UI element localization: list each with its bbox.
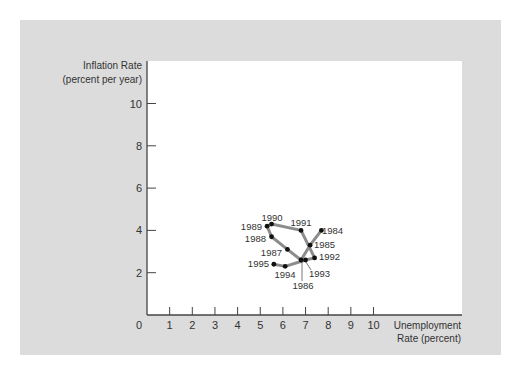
x-tick-label: 5 — [257, 319, 263, 331]
data-point-1992 — [312, 255, 317, 260]
plot-area — [147, 61, 462, 315]
x-axis-title-line: Rate (percent) — [397, 333, 461, 344]
data-point-1995 — [271, 262, 276, 267]
y-tick-label: 6 — [136, 182, 142, 194]
y-tick-label: 8 — [136, 140, 142, 152]
point-label-1990: 1990 — [261, 212, 282, 223]
data-point-1993 — [303, 258, 308, 263]
point-label-1984: 1984 — [322, 225, 343, 236]
chart: 246810123456789100 Inflation Rate(percen… — [0, 0, 523, 378]
y-tick-label: 4 — [136, 224, 142, 236]
x-tick-label: 10 — [367, 319, 379, 331]
x-tick-label: 2 — [189, 319, 195, 331]
point-label-1995: 1995 — [248, 258, 269, 269]
data-point-1986 — [299, 258, 304, 263]
data-point-1988 — [269, 234, 274, 239]
point-label-1994: 1994 — [274, 269, 295, 280]
point-label-1986: 1986 — [292, 280, 313, 291]
y-tick-label: 2 — [136, 267, 142, 279]
x-tick-label: 9 — [348, 319, 354, 331]
x-axis-title-line: Unemployment — [394, 320, 461, 331]
y-axis-title-line: (percent per year) — [63, 74, 142, 85]
x-tick-label: 1 — [167, 319, 173, 331]
x-tick-label: 4 — [235, 319, 241, 331]
x-tick-label: 7 — [302, 319, 308, 331]
x-tick-label: 8 — [325, 319, 331, 331]
point-label-1985: 1985 — [314, 239, 335, 250]
point-label-1991: 1991 — [290, 217, 311, 228]
y-tick-label: 10 — [130, 98, 142, 110]
point-label-1988: 1988 — [245, 233, 266, 244]
point-label-1989: 1989 — [241, 221, 262, 232]
origin-label: 0 — [136, 319, 142, 331]
x-tick-label: 6 — [280, 319, 286, 331]
data-point-1989 — [265, 224, 270, 229]
x-tick-label: 3 — [212, 319, 218, 331]
point-label-1987: 1987 — [261, 247, 282, 258]
y-axis-title-line: Inflation Rate — [83, 60, 142, 71]
data-point-1987 — [285, 247, 290, 252]
data-point-1985 — [308, 243, 313, 248]
point-label-1993: 1993 — [309, 268, 330, 279]
point-label-1992: 1992 — [319, 251, 340, 262]
data-point-1991 — [299, 228, 304, 233]
